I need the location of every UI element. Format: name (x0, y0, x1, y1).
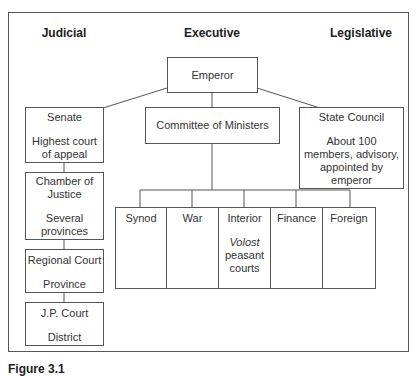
heading-legislative: Legislative (330, 26, 392, 40)
committee-of-ministers-box: Committee of Ministers (145, 107, 280, 144)
senate-box: Senate Highest court of appeal (25, 107, 104, 163)
senate-jurisdiction: Highest court of appeal (26, 135, 103, 161)
jp-court-jurisdiction: District (26, 331, 103, 344)
regional-court-box: Regional Court Province (25, 249, 104, 293)
figure-caption: Figure 3.1 (8, 362, 65, 376)
emperor-label: Emperor (191, 69, 233, 81)
jp-court-name: J.P. Court (26, 307, 103, 320)
ministry-foreign-box: Foreign (322, 207, 376, 289)
heading-judicial: Judicial (42, 26, 87, 40)
chamber-name: Chamber of Justice (26, 175, 103, 201)
state-council-name: State Council (300, 111, 403, 124)
heading-executive: Executive (184, 26, 240, 40)
ministry-synod-label: Synod (116, 212, 166, 225)
volost-note: Volost (219, 236, 270, 249)
regional-court-jurisdiction: Province (26, 278, 103, 291)
jp-court-box: J.P. Court District (25, 302, 104, 346)
peasant-courts-note: peasant courts (219, 249, 270, 275)
regional-court-name: Regional Court (26, 254, 103, 267)
ministry-synod-box: Synod (115, 207, 167, 289)
ministry-foreign-label: Foreign (323, 212, 375, 225)
chamber-of-justice-box: Chamber of Justice Several provinces (25, 172, 104, 240)
ministry-war-box: War (166, 207, 219, 289)
ministry-interior-label: Interior (219, 212, 270, 225)
ministry-finance-label: Finance (271, 212, 322, 225)
ministry-war-label: War (167, 212, 218, 225)
state-council-box: State Council About 100 members, advisor… (299, 107, 404, 189)
senate-name: Senate (26, 111, 103, 124)
chamber-jurisdiction: Several provinces (26, 212, 103, 238)
emperor-box: Emperor (167, 57, 258, 93)
ministry-finance-box: Finance (270, 207, 323, 289)
committee-label: Committee of Ministers (156, 119, 268, 131)
state-council-description: About 100 members, advisory, appointed b… (300, 135, 403, 187)
ministry-interior-box: Interior Volost peasant courts (218, 207, 271, 289)
